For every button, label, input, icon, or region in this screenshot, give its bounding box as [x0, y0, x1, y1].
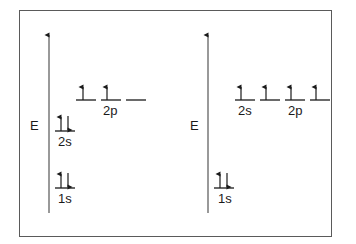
orbital-label-2p-right: 2p	[288, 104, 302, 117]
orbital-1s-ground	[55, 173, 75, 188]
orbital-2s2p-promoted	[235, 87, 330, 100]
orbital-label-2s-left: 2s	[58, 135, 72, 148]
orbital-diagram-canvas	[0, 0, 356, 244]
energy-axis-label-left: E	[30, 119, 39, 132]
orbital-1s-promoted	[214, 173, 234, 188]
promoted-state-panel	[208, 35, 330, 213]
orbital-2s-ground	[55, 116, 75, 131]
energy-axis-label-right: E	[190, 119, 199, 132]
ground-state-panel	[49, 35, 146, 213]
orbital-label-2p-left: 2p	[103, 104, 117, 117]
orbital-2p-ground	[76, 87, 146, 100]
orbital-label-1s-left: 1s	[58, 192, 72, 205]
orbital-label-2s-right: 2s	[238, 104, 252, 117]
orbital-label-1s-right: 1s	[218, 192, 232, 205]
